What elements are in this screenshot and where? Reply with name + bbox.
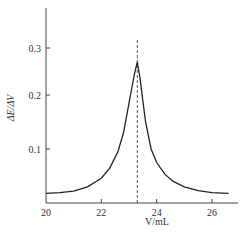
y-axis-label: ΔE/ΔV — [5, 93, 16, 123]
x-tick-label: 26 — [207, 207, 217, 218]
x-tick-label: 20 — [41, 207, 51, 218]
titration-derivative-chart: 0.10.20.3 20222426 ΔE/ΔV V/mL — [0, 0, 246, 235]
y-tick-label: 0.2 — [29, 90, 42, 101]
axes — [46, 8, 238, 203]
y-tick-label: 0.1 — [29, 144, 42, 155]
x-ticks: 20222426 — [41, 199, 217, 218]
x-axis-label: V/mL — [145, 216, 169, 227]
x-tick-label: 22 — [96, 207, 106, 218]
y-tick-label: 0.3 — [29, 43, 42, 54]
y-ticks: 0.10.20.3 — [29, 43, 51, 155]
